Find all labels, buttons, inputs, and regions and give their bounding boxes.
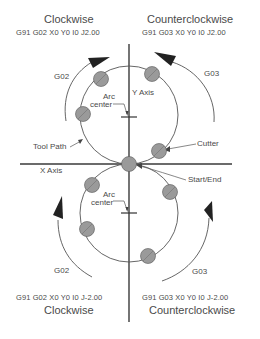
y-axis-label: Y Axis [132,89,154,97]
bottom-right-arc-label: G03 [192,268,207,276]
top-right-title: Counterclockwise [147,14,233,25]
upper-arc-center-leader [113,104,127,114]
top-left-code: G91 G02 X0 Y0 I0 J2.00 [16,29,100,37]
bottom-left-arrowhead [53,196,63,219]
top-right-code: G91 G03 X0 Y0 I0 J2.00 [142,29,226,37]
tool-path-label: Tool Path [33,143,66,151]
bottom-right-title: Counterclockwise [149,305,235,316]
top-left-title: Clockwise [44,14,94,25]
cutter-label: Cutter [197,140,219,148]
tool-path-arrowhead [78,139,83,144]
start-end-label: Start/End [188,176,221,184]
arc-interpolation-diagram [0,0,260,339]
x-axis-label: X Axis [40,167,62,175]
bottom-left-title: Clockwise [44,305,94,316]
lower-arc-center-leader [113,201,127,210]
bottom-right-code: G91 G03 X0 Y0 I0 J-2.00 [142,294,228,302]
top-right-arrowhead [154,52,176,66]
upper-arc-center-arrowhead [126,111,129,116]
top-left-arrowhead [88,57,110,68]
bottom-right-arrowhead [204,201,213,222]
bottom-left-code: G91 G02 X0 Y0 I0 J-2.00 [16,294,102,302]
top-right-arc-label: G03 [204,70,219,78]
top-left-arc-label: G02 [54,73,69,81]
lower-arc-center-arrowhead [126,207,129,212]
cutter-start-end [122,157,137,172]
lower-arc-center-label-2: center [91,199,113,207]
bottom-left-arc-label: G02 [54,267,69,275]
upper-arc-center-label-2: center [90,101,112,109]
cutter-leader [168,144,196,149]
